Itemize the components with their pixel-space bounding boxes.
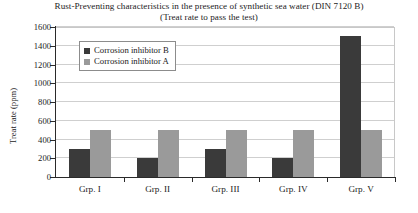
- legend-label: Corrosion inhibitor B: [94, 46, 169, 55]
- legend-item: Corrosion inhibitor A: [84, 56, 169, 67]
- y-axis-tick-mark: [50, 177, 55, 178]
- y-axis-tick-mark: [50, 121, 55, 122]
- chart-title: Rust-Preventing characteristics in the p…: [0, 1, 418, 23]
- x-axis-tick-label: Grp. III: [211, 184, 239, 195]
- bar-chart-figure: Rust-Preventing characteristics in the p…: [0, 0, 418, 213]
- bar: [90, 130, 111, 177]
- x-axis-tick-label: Grp. I: [79, 184, 101, 195]
- x-axis-tick-mark: [395, 178, 396, 182]
- legend-item: Corrosion inhibitor B: [84, 45, 169, 56]
- y-axis-tick-mark: [50, 65, 55, 66]
- chart-legend: Corrosion inhibitor BCorrosion inhibitor…: [79, 41, 176, 71]
- bar: [69, 149, 90, 177]
- chart-subtitle: (Treat rate to pass the test): [0, 12, 418, 23]
- chart-title-line1: Rust-Preventing characteristics in the p…: [55, 1, 364, 11]
- bar: [340, 36, 361, 177]
- gridline: [56, 26, 394, 27]
- bar: [361, 130, 382, 177]
- bar: [272, 158, 293, 177]
- y-axis-tick-label: 1200: [18, 60, 51, 69]
- y-axis-tick-label: 1000: [18, 79, 51, 88]
- y-axis-tick-labels: 02004006008001000120014001600: [18, 27, 51, 177]
- y-axis-tick-label: 1400: [18, 41, 51, 50]
- x-axis-tick-labels: Grp. IGrp. IIGrp. IIIGrp. IVGrp. V: [56, 184, 395, 200]
- y-axis-tick-label: 400: [18, 135, 51, 144]
- y-axis-tick-mark: [50, 46, 55, 47]
- y-axis-line: [55, 26, 56, 178]
- y-axis-tick-label: 600: [18, 116, 51, 125]
- x-axis-line: [55, 177, 396, 178]
- x-axis-tick-mark: [124, 178, 125, 182]
- bar: [226, 130, 247, 177]
- bar: [137, 158, 158, 177]
- y-axis-tick-mark: [50, 83, 55, 84]
- y-axis-title-text: Treat rate (ppm): [8, 88, 18, 144]
- legend-swatch-icon: [84, 48, 90, 54]
- y-axis-tick-mark: [50, 158, 55, 159]
- bar: [293, 130, 314, 177]
- legend-label: Corrosion inhibitor A: [94, 57, 169, 66]
- bar: [205, 149, 226, 177]
- y-axis-tick-mark: [50, 27, 55, 28]
- x-axis-tick-mark: [259, 178, 260, 182]
- legend-swatch-icon: [84, 59, 90, 65]
- x-axis-tick-label: Grp. V: [348, 184, 373, 195]
- bar: [158, 130, 179, 177]
- x-axis-tick-mark: [192, 178, 193, 182]
- y-axis-tick-label: 200: [18, 154, 51, 163]
- x-axis-tick-mark: [327, 178, 328, 182]
- y-axis-tick-mark: [50, 140, 55, 141]
- y-axis-tick-label: 1600: [18, 23, 51, 32]
- x-axis-tick-label: Grp. IV: [279, 184, 308, 195]
- x-axis-tick-label: Grp. II: [145, 184, 170, 195]
- y-axis-tick-mark: [50, 102, 55, 103]
- y-axis-tick-label: 0: [18, 173, 51, 182]
- y-axis-tick-label: 800: [18, 98, 51, 107]
